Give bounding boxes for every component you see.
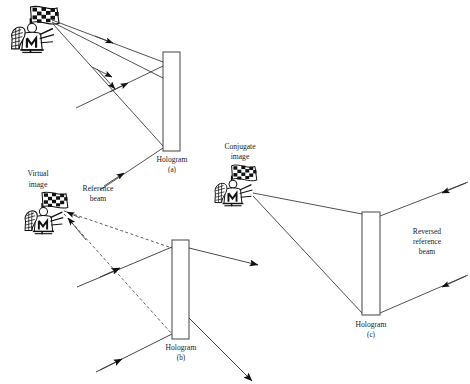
reversed-reference-label-line3: beam bbox=[419, 247, 436, 256]
reversed-reference-label-line2: reference bbox=[413, 237, 442, 246]
hologram-figure: Hologram (a) Virtual image Reference bea… bbox=[0, 0, 470, 384]
hologram-plate-c bbox=[362, 212, 380, 315]
conjugate-image-label-line1: Conjugate bbox=[224, 142, 256, 151]
reference-beam-label-line2: beam bbox=[90, 194, 107, 203]
reconstruction-beam-b-upper bbox=[77, 247, 172, 287]
virtual-ray-b-upper bbox=[64, 211, 172, 248]
diagram-canvas: Hologram (a) Virtual image Reference bea… bbox=[0, 0, 470, 384]
reversed-reference-beam-upper bbox=[380, 182, 468, 216]
hologram-c-label: Hologram bbox=[356, 320, 387, 329]
hologram-b-sublabel: (b) bbox=[177, 354, 186, 362]
virtual-image-label-line1: Virtual bbox=[27, 169, 48, 178]
hologram-c-sublabel: (c) bbox=[367, 331, 376, 339]
panel-c: Conjugate image Reversed reference beam … bbox=[215, 142, 468, 339]
object-beam-a-middle bbox=[52, 22, 163, 78]
conjugate-ray-lower bbox=[253, 196, 362, 313]
hologram-plate-a bbox=[163, 52, 180, 151]
conjugate-ray-upper bbox=[253, 193, 362, 214]
object-beam-a-lower bbox=[53, 24, 163, 146]
output-beam-b-lower bbox=[189, 318, 252, 381]
hologram-a-label: Hologram bbox=[157, 155, 188, 164]
hologram-b-label: Hologram bbox=[166, 343, 197, 352]
virtual-image-label-line2: image bbox=[29, 180, 48, 189]
panel-b: Virtual image Reference beam bbox=[25, 169, 258, 381]
reversed-reference-label-line1: Reversed bbox=[413, 227, 441, 236]
panel-a: Hologram (a) bbox=[12, 6, 188, 190]
virtual-ray-b-lower bbox=[64, 214, 172, 334]
reference-beam-label-line1: Reference bbox=[83, 184, 114, 193]
output-beam-b-upper bbox=[189, 248, 258, 265]
object-figure-a bbox=[12, 6, 59, 53]
conjugate-image-label-line2: image bbox=[231, 152, 250, 161]
hologram-plate-b bbox=[172, 240, 189, 339]
conjugate-image-figure-c bbox=[215, 165, 257, 206]
hologram-a-sublabel: (a) bbox=[168, 166, 177, 174]
virtual-image-figure-b bbox=[25, 192, 68, 234]
